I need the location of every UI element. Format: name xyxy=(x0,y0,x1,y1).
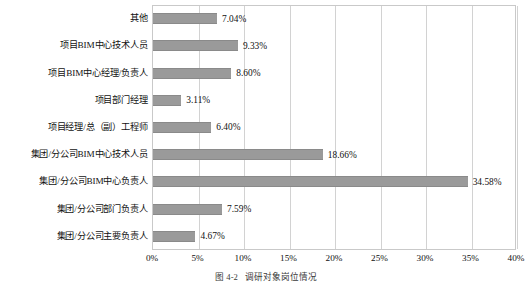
category-label: 集团/分公司主要负责人 xyxy=(2,231,148,242)
figure-chart: 其他7.04%项目BIM中心技术人员9.33%项目BIM中心经理/负责人8.60… xyxy=(0,0,532,285)
caption-number: 图 4-2 xyxy=(215,272,238,282)
bar-row: 集团/分公司BIM中心负责人34.58% xyxy=(0,168,532,195)
bar-row: 集团/分公司BIM中心技术人员18.66% xyxy=(0,141,532,168)
x-axis: 0%5%10%15%20%25%30%35%40% xyxy=(152,252,516,266)
category-label: 项目BIM中心经理/负责人 xyxy=(2,68,148,79)
bar-rows: 其他7.04%项目BIM中心技术人员9.33%项目BIM中心经理/负责人8.60… xyxy=(0,5,532,250)
x-tick-label: 25% xyxy=(371,252,388,264)
bar-container: 4.67% xyxy=(153,223,225,250)
x-tick-label: 20% xyxy=(326,252,343,264)
category-label: 项目经理/总（副）工程师 xyxy=(2,122,148,133)
x-tick-label: 0% xyxy=(146,252,158,264)
bar-value-label: 7.59% xyxy=(227,204,251,214)
bar-row: 项目BIM中心经理/负责人8.60% xyxy=(0,59,532,86)
bar-row: 项目经理/总（副）工程师6.40% xyxy=(0,114,532,141)
category-label: 项目部门经理 xyxy=(2,95,148,106)
bar-value-label: 34.58% xyxy=(473,177,502,187)
bar[interactable] xyxy=(153,40,238,51)
bar-value-label: 9.33% xyxy=(243,41,267,51)
category-label: 项目BIM中心技术人员 xyxy=(2,40,148,51)
bar[interactable] xyxy=(153,176,468,187)
bar-container: 3.11% xyxy=(153,87,210,114)
bar-container: 7.04% xyxy=(153,5,246,32)
bar[interactable] xyxy=(153,95,181,106)
x-tick-label: 40% xyxy=(508,252,525,264)
bar[interactable] xyxy=(153,13,217,24)
bar-row: 其他7.04% xyxy=(0,5,532,32)
bar-container: 6.40% xyxy=(153,114,240,141)
bar-container: 7.59% xyxy=(153,196,251,223)
bar-value-label: 18.66% xyxy=(328,150,357,160)
bar-container: 8.60% xyxy=(153,59,260,86)
bar-value-label: 4.67% xyxy=(200,231,224,241)
bar[interactable] xyxy=(153,204,222,215)
category-label: 集团/分公司BIM中心负责人 xyxy=(2,176,148,187)
bar-row: 集团/分公司主要负责人4.67% xyxy=(0,223,532,250)
category-label: 集团/分公司部门负责人 xyxy=(2,204,148,215)
caption-text: 调研对象岗位情况 xyxy=(245,272,317,282)
bar[interactable] xyxy=(153,68,231,79)
bar-container: 34.58% xyxy=(153,168,502,195)
bar[interactable] xyxy=(153,149,323,160)
bar-value-label: 8.60% xyxy=(236,68,260,78)
bar-row: 项目部门经理3.11% xyxy=(0,87,532,114)
bar-row: 项目BIM中心技术人员9.33% xyxy=(0,32,532,59)
bar-value-label: 7.04% xyxy=(222,14,246,24)
x-tick-label: 5% xyxy=(191,252,203,264)
x-tick-label: 35% xyxy=(462,252,479,264)
bar-container: 9.33% xyxy=(153,32,267,59)
bar-container: 18.66% xyxy=(153,141,357,168)
x-tick-label: 30% xyxy=(417,252,434,264)
category-label: 集团/分公司BIM中心技术人员 xyxy=(2,149,148,160)
x-tick-label: 15% xyxy=(280,252,297,264)
bar-value-label: 6.40% xyxy=(216,122,240,132)
category-label: 其他 xyxy=(2,13,148,24)
bar-row: 集团/分公司部门负责人7.59% xyxy=(0,196,532,223)
bar[interactable] xyxy=(153,122,211,133)
figure-caption: 图 4-2调研对象岗位情况 xyxy=(0,272,532,283)
x-tick-label: 10% xyxy=(235,252,252,264)
bar-value-label: 3.11% xyxy=(186,95,210,105)
bar[interactable] xyxy=(153,231,195,242)
